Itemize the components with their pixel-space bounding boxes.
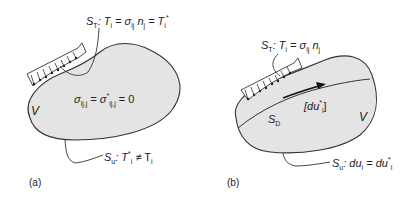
volume-label-b: V bbox=[359, 111, 367, 123]
du-star-symbol: = du bbox=[363, 157, 388, 169]
bracket-close: ] bbox=[324, 100, 327, 112]
surface-traction-label-a: ST: Ti = σij nj = Ti* bbox=[86, 14, 169, 29]
diagram-canvas: ST: Ti = σij nj = Ti* σij,j = σ*ij,j = 0… bbox=[0, 0, 406, 199]
sub-j: j bbox=[319, 46, 321, 53]
star: * bbox=[166, 14, 169, 21]
t-symbol: : T bbox=[98, 15, 111, 27]
equals-zero: = 0 bbox=[116, 93, 135, 105]
sub-i2: i bbox=[391, 164, 393, 171]
equilibrium-equation-a: σij,j = σ*ij,j = 0 bbox=[74, 92, 134, 107]
sigma-symbol: = σ bbox=[112, 15, 131, 27]
volume-label-a: V bbox=[31, 105, 39, 117]
caption-a: (a) bbox=[29, 178, 41, 188]
star: * bbox=[388, 156, 391, 163]
caption-b: (b) bbox=[227, 178, 239, 188]
t-symbol: : T bbox=[115, 151, 128, 163]
n-symbol: n bbox=[134, 15, 143, 27]
sigma-symbol: σ bbox=[74, 93, 81, 105]
star: * bbox=[319, 99, 322, 106]
discontinuity-label-b: [du*i] bbox=[304, 99, 327, 114]
star: * bbox=[106, 92, 109, 99]
sub-ijj2: ij,j bbox=[109, 100, 116, 107]
leader-su-a bbox=[65, 140, 103, 163]
surface-traction-label-b: ST: Ti = σij nj bbox=[261, 40, 320, 53]
sub-i2: i bbox=[164, 22, 166, 29]
surface-displacement-label-b: Su: dui = du*i bbox=[332, 156, 392, 171]
star: * bbox=[128, 150, 131, 157]
sub-d: D bbox=[275, 120, 280, 127]
sigma-star-symbol: = σ bbox=[87, 93, 106, 105]
not-equal-t: ≠ T bbox=[132, 151, 151, 163]
leader-su-b bbox=[283, 153, 330, 166]
discontinuity-surface-label-b: SD bbox=[268, 114, 280, 127]
t-symbol: : T bbox=[273, 39, 286, 51]
n-symbol: n bbox=[309, 39, 318, 51]
t-star-symbol: = T bbox=[145, 15, 164, 27]
surface-displacement-label-a: Su: T*i ≠ Ti bbox=[104, 150, 153, 165]
du-symbol: [du bbox=[304, 100, 319, 112]
sub-i2: i bbox=[151, 158, 153, 165]
sigma-symbol: = σ bbox=[287, 39, 306, 51]
du-symbol: : du bbox=[343, 157, 361, 169]
